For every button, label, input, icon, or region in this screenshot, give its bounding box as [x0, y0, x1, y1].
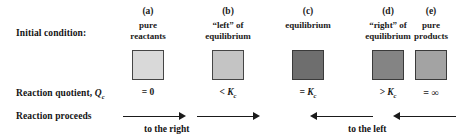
arrow-head [253, 112, 260, 120]
caption-line-2: products [400, 31, 462, 42]
row-label-initial-condition: Initial condition: [16, 28, 86, 38]
caption-line-1: equilibrium [272, 20, 344, 31]
qc-value-c: = Kc [272, 87, 344, 101]
concentration-swatch-c [292, 50, 324, 80]
arrow-right-a [123, 111, 186, 122]
qc-relation: = 0 [142, 87, 155, 97]
row-label-reaction-quotient: Reaction quotient, Qc [16, 88, 105, 100]
caption-line-2: equilibrium [192, 31, 264, 42]
arrow-head [179, 112, 186, 120]
qc-relation: < K [219, 87, 233, 97]
qc-value-e: = ∞ [400, 87, 462, 102]
qc-value-a: = 0 [112, 87, 184, 101]
caption-line-1: pure [400, 20, 462, 31]
caption-line-2: reactants [112, 31, 184, 42]
arrow-shaft [316, 116, 373, 117]
arrow-shaft [123, 116, 180, 117]
qc-relation: = ∞ [423, 87, 438, 98]
arrow-head [393, 112, 400, 120]
caption-line-1: pure [112, 20, 184, 31]
row-label-reaction-proceeds: Reaction proceeds [16, 111, 92, 121]
direction-label-right: to the right [144, 124, 189, 134]
column-caption-c: equilibrium [272, 20, 344, 31]
arrow-right-b [197, 111, 260, 122]
arrow-left-d [310, 111, 373, 122]
reaction-quotient-text: Reaction quotient, [16, 88, 95, 98]
concentration-swatch-e [415, 50, 447, 80]
caption-line-1: “left” of [192, 20, 264, 31]
column-letter-c: (c) [272, 6, 344, 17]
qc-relation: > K [379, 87, 393, 97]
arrow-left-e [393, 111, 456, 122]
arrow-shaft [399, 116, 456, 117]
qc-value-b: < Kc [192, 87, 264, 101]
column-letter-e: (e) [400, 6, 462, 17]
qc-subscript: c [314, 92, 317, 99]
concentration-swatch-b [212, 50, 244, 80]
equilibrium-reaction-quotient-figure: Initial condition: Reaction quotient, Qc… [0, 0, 466, 140]
column-letter-b: (b) [192, 6, 264, 17]
reaction-quotient-symbol: Q [95, 88, 102, 98]
qc-subscript: c [394, 92, 397, 99]
direction-label-left: to the left [348, 124, 387, 134]
column-letter-a: (a) [112, 6, 184, 17]
column-caption-b: “left” of equilibrium [192, 20, 264, 41]
qc-subscript: c [234, 92, 237, 99]
arrow-shaft [197, 116, 254, 117]
qc-relation: = K [299, 87, 313, 97]
concentration-swatch-a [132, 50, 164, 80]
reaction-quotient-subscript: c [102, 93, 105, 100]
arrow-head [310, 112, 317, 120]
column-caption-e: pure products [400, 20, 462, 41]
column-caption-a: pure reactants [112, 20, 184, 41]
